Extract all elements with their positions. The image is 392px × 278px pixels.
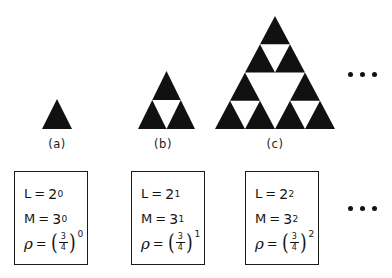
- equals-sign: =: [265, 186, 276, 201]
- formula-box-a: L = 20 M = 30 ρ = ( 3 4 ) 0: [14, 171, 88, 265]
- symbol-rho: ρ: [255, 237, 264, 252]
- formula-line-L: L = 21: [141, 181, 204, 206]
- equals-sign: =: [267, 236, 278, 251]
- paren-close: ): [300, 234, 307, 252]
- base-value: 3: [52, 211, 61, 227]
- base-value: 2: [279, 186, 288, 202]
- symbol-M: M: [24, 211, 35, 226]
- ellipsis-dot: [372, 206, 377, 211]
- formula-line-L: L = 20: [24, 181, 87, 206]
- sierpinski-figure: (a) (b) (c) L = 20 M = 30 ρ = ( 3 4 ): [0, 0, 392, 278]
- symbol-L: L: [255, 186, 262, 201]
- equals-sign: =: [34, 186, 45, 201]
- equals-sign: =: [151, 186, 162, 201]
- formula-line-M: M = 31: [141, 206, 204, 231]
- formula-line-L: L = 22: [255, 181, 318, 206]
- fraction-group: ( 3 4 ) 1: [167, 233, 201, 252]
- symbol-L: L: [24, 186, 31, 201]
- paren-open: (: [282, 234, 289, 252]
- formula-line-M: M = 32: [255, 206, 318, 231]
- sierpinski-stage-a: [42, 99, 72, 129]
- ellipsis-dot: [372, 72, 377, 77]
- fraction-group: ( 3 4 ) 0: [50, 233, 84, 252]
- exponent-value: 1: [195, 229, 201, 239]
- stage-caption-b: (b): [133, 137, 193, 151]
- formula-line-rho: ρ = ( 3 4 ) 1: [141, 231, 204, 256]
- base-value: 3: [283, 211, 292, 227]
- fraction: 3 4: [176, 233, 185, 252]
- symbol-rho: ρ: [141, 237, 150, 252]
- ellipsis-triangles: [348, 72, 377, 77]
- equals-sign: =: [269, 211, 280, 226]
- exponent-value: 2: [309, 229, 315, 239]
- equals-sign: =: [38, 211, 49, 226]
- fraction-group: ( 3 4 ) 2: [281, 233, 315, 252]
- ellipsis-dot: [360, 72, 365, 77]
- stage-caption-c: (c): [245, 137, 305, 151]
- symbol-L: L: [141, 186, 148, 201]
- formula-box-c: L = 22 M = 32 ρ = ( 3 4 ) 2: [245, 171, 319, 265]
- paren-close: ): [69, 234, 76, 252]
- equals-sign: =: [155, 211, 166, 226]
- fraction-denominator: 4: [59, 244, 68, 252]
- exponent-value: 0: [78, 229, 84, 239]
- ellipsis-dot: [348, 206, 353, 211]
- fraction-denominator: 4: [176, 244, 185, 252]
- fraction-numerator: 3: [176, 233, 185, 241]
- sierpinski-stage-c: [215, 16, 335, 129]
- symbol-rho: ρ: [24, 237, 33, 252]
- equals-sign: =: [36, 236, 47, 251]
- stage-caption-a: (a): [27, 137, 87, 151]
- formula-line-M: M = 30: [24, 206, 87, 231]
- ellipsis-dot: [348, 72, 353, 77]
- paren-open: (: [168, 234, 175, 252]
- ellipsis-formulas: [348, 206, 377, 211]
- fraction-numerator: 3: [59, 233, 68, 241]
- fraction-numerator: 3: [290, 233, 299, 241]
- paren-open: (: [51, 234, 58, 252]
- base-value: 2: [48, 186, 57, 202]
- equals-sign: =: [153, 236, 164, 251]
- triangle-filled: [42, 99, 72, 129]
- symbol-M: M: [255, 211, 266, 226]
- ellipsis-dot: [360, 206, 365, 211]
- fraction: 3 4: [59, 233, 68, 252]
- base-value: 2: [165, 186, 174, 202]
- fraction: 3 4: [290, 233, 299, 252]
- base-value: 3: [169, 211, 178, 227]
- paren-close: ): [186, 234, 193, 252]
- formula-line-rho: ρ = ( 3 4 ) 0: [24, 231, 87, 256]
- fraction-denominator: 4: [290, 244, 299, 252]
- symbol-M: M: [141, 211, 152, 226]
- formula-box-b: L = 21 M = 31 ρ = ( 3 4 ) 1: [131, 171, 205, 265]
- formula-line-rho: ρ = ( 3 4 ) 2: [255, 231, 318, 256]
- sierpinski-stage-b: [138, 71, 195, 129]
